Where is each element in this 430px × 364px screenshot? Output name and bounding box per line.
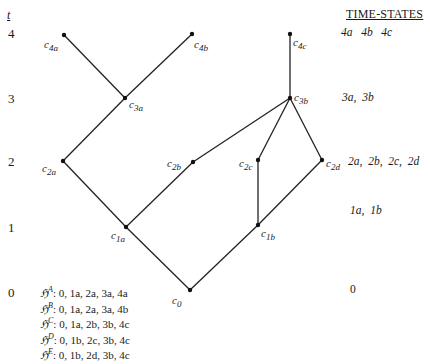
history-D: ℌD: 0, 1b, 2c, 3b, 4c [40, 331, 130, 347]
node-c3b [288, 96, 292, 100]
node-c4c [288, 32, 292, 36]
edge-c2b-c3b [193, 98, 290, 162]
label-c3b: c3b [294, 91, 308, 106]
label-c4c: c4c [293, 36, 306, 51]
histories-list: ℌA: 0, 1a, 2a, 3a, 4a ℌB: 0, 1a, 2a, 3a,… [40, 284, 130, 362]
node-c0 [188, 288, 192, 292]
edge-c3a-c4b [125, 34, 192, 98]
label-c3a: c3a [129, 98, 143, 113]
history-A: ℌA: 0, 1a, 2a, 3a, 4a [40, 284, 130, 300]
axis-tick-1: 1 [8, 220, 15, 236]
time-states-title: TIME-STATES [346, 7, 423, 22]
label-c4b: c4b [194, 38, 208, 53]
history-B: ℌB: 0, 1a, 2a, 3a, 4b [40, 300, 130, 316]
label-c0: c0 [172, 294, 181, 309]
tree-nodes [61, 32, 324, 292]
edge-c2d-c3b [290, 98, 322, 160]
edge-c0-c1a [126, 227, 190, 290]
time-states-row-0: 0 [350, 283, 356, 295]
edge-c1a-c2b [126, 162, 193, 227]
label-c1b: c1b [261, 227, 275, 242]
axis-tick-4: 4 [8, 26, 15, 42]
edge-c1b-c2d [258, 160, 322, 225]
edge-c2a-c3a [63, 98, 125, 161]
label-c2c: c2c [239, 157, 252, 172]
node-c2c [256, 158, 260, 162]
axis-tick-2: 2 [8, 154, 15, 170]
edge-c0-c1b [190, 225, 258, 290]
label-c1a: c1a [111, 229, 125, 244]
time-states-row-3: 3a, 3b [342, 91, 374, 103]
label-c2b: c2b [167, 157, 181, 172]
node-c2b [191, 160, 195, 164]
edge-c3a-c4a [64, 35, 125, 98]
label-c2d: c2d [326, 157, 340, 172]
edge-c2c-c3b [258, 98, 290, 160]
label-c2a: c2a [42, 162, 56, 177]
time-states-row-2: 2a, 2b, 2c, 2d [348, 155, 419, 167]
label-c4a: c4a [44, 38, 58, 53]
node-c3a [123, 96, 127, 100]
node-c4a [62, 33, 66, 37]
axis-title: t [7, 8, 10, 23]
node-c2a [61, 159, 65, 163]
time-states-row-4: 4a 4b 4c [341, 26, 392, 38]
time-states-row-1: 1a, 1b [350, 204, 382, 216]
axis-tick-0: 0 [8, 285, 15, 301]
history-E: ℌE: 0, 1b, 2d, 3b, 4c [40, 346, 130, 362]
history-C: ℌC: 0, 1a, 2b, 3b, 4c [40, 315, 130, 331]
node-c2d [320, 158, 324, 162]
axis-tick-3: 3 [8, 91, 15, 107]
edge-c1a-c2a [63, 161, 126, 227]
node-c4b [190, 32, 194, 36]
node-c1b [256, 223, 260, 227]
